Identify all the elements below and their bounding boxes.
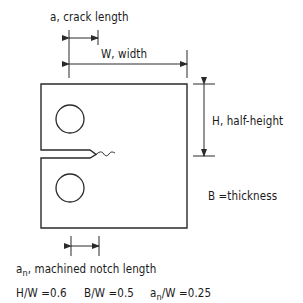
ratio-bw: B/W =0.5 (84, 286, 134, 300)
notch-length-label: an, machined notch length (16, 262, 156, 276)
ratio-hw: H/W =0.6 (16, 286, 67, 300)
crack-line (96, 152, 115, 156)
ratio-anw: an/W =0.25 (150, 286, 211, 300)
notch-length-dimension (71, 236, 99, 256)
diagram-drawing (0, 0, 303, 303)
ratio-anw-text: /W =0.25 (162, 286, 212, 300)
width-label: W, width (101, 47, 147, 61)
crack-length-dimension (69, 30, 98, 45)
half-height-label: H, half-height (212, 114, 283, 128)
notch-subscript: n (22, 268, 27, 278)
crack-length-label: a, crack length (50, 10, 129, 24)
upper-loading-hole (56, 105, 84, 133)
notch-text: , machined notch length (28, 262, 157, 276)
thickness-label: B =thickness (208, 189, 277, 203)
lower-loading-hole (56, 174, 84, 202)
ratio-anw-subscript: n (156, 292, 161, 302)
ct-specimen-diagram: a, crack length W, width H, half-height … (0, 0, 303, 303)
specimen-outline (41, 84, 187, 228)
